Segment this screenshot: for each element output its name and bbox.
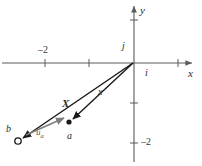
vector-x-italic <box>73 63 133 119</box>
y-axis <box>130 6 138 162</box>
y-axis-tick-label-minus2: –2 <box>141 137 151 147</box>
point-a-marker <box>66 119 71 124</box>
y-axis-label: y <box>140 5 145 16</box>
unit-vector-i-label: i <box>145 68 148 78</box>
unit-vector-j-label: j <box>122 41 125 51</box>
unit-vector-ua-arrow <box>26 118 64 135</box>
x-axis <box>2 59 192 67</box>
vector-x-italic-label: x <box>98 87 102 97</box>
x-axis-label: x <box>188 68 193 79</box>
vector-X-bold-label: X <box>62 98 69 109</box>
diagram-canvas <box>0 0 202 166</box>
point-a-label: a <box>67 131 72 141</box>
vector-diagram-figure: x y –2 –2 j i X x b a ua <box>0 0 202 166</box>
unit-vector-ua-label-sub: a <box>41 132 44 139</box>
point-b-marker <box>15 138 21 144</box>
vector-x-italic-line <box>73 63 133 119</box>
x-axis-tick-label-minus2: –2 <box>38 45 48 55</box>
point-b-label: b <box>6 124 11 134</box>
unit-vector-ua-label: ua <box>36 128 44 139</box>
